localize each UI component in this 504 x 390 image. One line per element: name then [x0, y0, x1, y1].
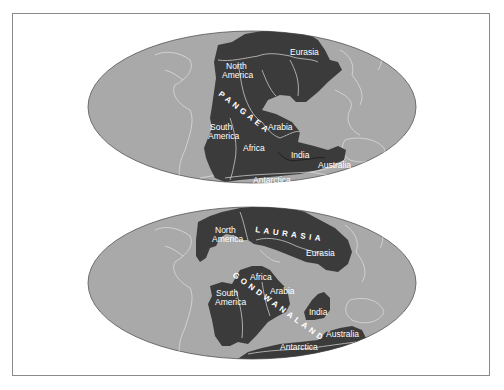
- laurasia-gondwanaland-map: North America LAURASIA Eurasia Africa GO…: [88, 206, 416, 364]
- label-arabia: Arabia: [270, 286, 295, 296]
- label-north-america-2: America: [212, 234, 243, 244]
- continental-drift-figure: North America Eurasia PANGAEA South Amer…: [0, 0, 504, 390]
- label-australia: Australia: [326, 329, 359, 339]
- label-australia: Australia: [318, 160, 351, 170]
- label-africa: Africa: [243, 143, 265, 153]
- pangaea-map: North America Eurasia PANGAEA South Amer…: [88, 30, 416, 185]
- label-india: India: [309, 307, 328, 317]
- label-eurasia: Eurasia: [306, 248, 335, 258]
- label-eurasia: Eurasia: [290, 47, 319, 57]
- label-africa: Africa: [250, 272, 272, 282]
- label-india: India: [291, 150, 310, 160]
- label-south-america-2: America: [215, 297, 246, 307]
- label-south-america-2: America: [208, 131, 239, 141]
- label-north-america-2: America: [222, 70, 253, 80]
- label-antarctica: Antarctica: [280, 342, 318, 352]
- label-antarctica: Antarctica: [253, 175, 291, 185]
- label-arabia: Arabia: [268, 122, 293, 132]
